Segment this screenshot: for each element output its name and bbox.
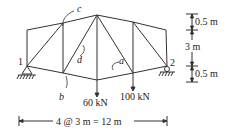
label-leaders bbox=[63, 11, 119, 88]
height-mid-label: 3 m bbox=[185, 41, 201, 52]
leader-b bbox=[66, 76, 67, 88]
vertical-member-5 bbox=[166, 30, 167, 66]
member-label-c: c bbox=[77, 3, 82, 14]
node-label-2: 2 bbox=[170, 57, 175, 68]
member-label-a: a bbox=[119, 55, 124, 66]
node-label-1: 1 bbox=[18, 56, 23, 67]
truss-members bbox=[27, 15, 167, 80]
load-label-60: 60 kN bbox=[83, 97, 108, 108]
diagonal-member-a bbox=[97, 15, 133, 73]
load-label-100: 100 kN bbox=[120, 91, 150, 102]
member-label-d: d bbox=[77, 54, 83, 65]
leader-a bbox=[112, 62, 119, 70]
span-dimension-label: 4 @ 3 m = 12 m bbox=[56, 116, 122, 127]
height-top-label: 0.5 m bbox=[195, 16, 218, 27]
truss-diagram: 1 2 c d a b 60 kN 100 kN 4 @ 3 m = 12 m … bbox=[0, 0, 234, 136]
height-bottom-label: 0.5 m bbox=[195, 68, 218, 79]
member-label-b: b bbox=[59, 91, 64, 102]
leader-c bbox=[63, 11, 74, 26]
pin-support-icon bbox=[17, 66, 36, 79]
